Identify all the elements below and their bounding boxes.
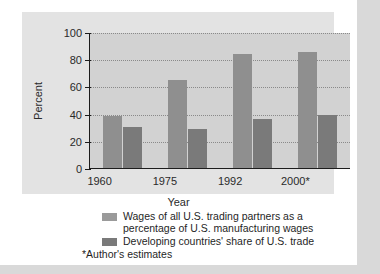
y-tick-label-60: 60	[70, 82, 82, 93]
legend-label-series-1: Developing countries' share of U.S. trad…	[123, 235, 314, 247]
chart-legend: Wages of all U.S. trading partners as a …	[102, 210, 352, 248]
bar-1975-series-1	[188, 129, 207, 168]
y-tick-mark-80	[85, 60, 91, 61]
y-tick-mark-40	[85, 115, 91, 116]
y-tick-label-0: 0	[76, 164, 82, 175]
y-tick-mark-0	[85, 169, 91, 170]
chart-figure: Percent 020406080100 1960197519922000* Y…	[0, 0, 380, 274]
x-tick-label-2000: 2000*	[281, 175, 310, 187]
chart-panel: Percent 020406080100 1960197519922000*	[22, 12, 334, 194]
x-tick-label-1992: 1992	[218, 175, 242, 187]
bar-1960-series-0	[103, 116, 122, 168]
bar-2000-series-1	[318, 115, 337, 168]
legend-label-series-0-line2: percentage of U.S. manufacturing wages	[123, 222, 313, 234]
legend-item-series-1: Developing countries' share of U.S. trad…	[102, 235, 352, 247]
bar-2000-series-0	[298, 52, 317, 168]
legend-label-series-1-line1: Developing countries' share of U.S. trad…	[123, 235, 314, 247]
bar-1960-series-1	[123, 127, 142, 168]
x-tick-label-1960: 1960	[87, 175, 111, 187]
figure-card: Percent 020406080100 1960197519922000* Y…	[0, 0, 357, 265]
y-axis-title: Percent	[32, 82, 44, 120]
y-tick-label-20: 20	[70, 136, 82, 147]
y-tick-label-100: 100	[64, 28, 82, 39]
plot-area: 020406080100	[89, 33, 350, 169]
y-tick-mark-20	[85, 142, 91, 143]
bar-1992-series-0	[233, 54, 252, 168]
bar-1992-series-1	[253, 119, 272, 168]
legend-label-series-0: Wages of all U.S. trading partners as a …	[123, 210, 313, 234]
chart-footnote: *Author's estimates	[82, 248, 172, 260]
series-1-swatch-icon	[102, 238, 117, 246]
series-0-swatch-icon	[102, 213, 117, 221]
y-tick-mark-60	[85, 87, 91, 88]
y-tick-label-80: 80	[70, 55, 82, 66]
bar-1975-series-0	[168, 80, 187, 168]
y-tick-mark-100	[85, 33, 91, 34]
gridline-100	[90, 33, 350, 34]
x-tick-label-1975: 1975	[153, 175, 177, 187]
x-axis-title: Year	[0, 196, 357, 208]
legend-item-series-0: Wages of all U.S. trading partners as a …	[102, 210, 352, 234]
y-tick-label-40: 40	[70, 109, 82, 120]
legend-label-series-0-line1: Wages of all U.S. trading partners as a	[123, 210, 313, 222]
